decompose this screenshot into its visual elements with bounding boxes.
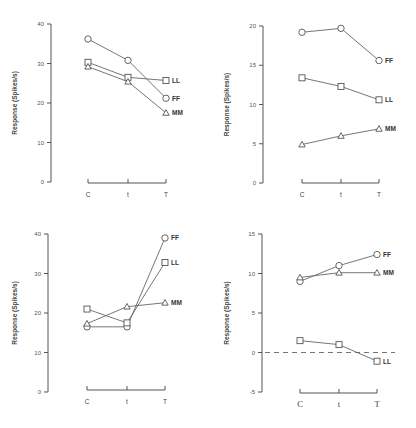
series-label: FF: [383, 251, 391, 258]
x-tick-label: T: [164, 191, 168, 198]
y-tick-label: 10: [37, 140, 44, 146]
series-label: LL: [383, 358, 391, 365]
series-mm: MM: [297, 269, 394, 280]
x-tick-label: T: [377, 191, 381, 198]
series-ff: FF: [299, 25, 393, 64]
y-tick-label: 20: [249, 23, 256, 29]
y-tick-label: 0: [252, 350, 256, 356]
series-label: MM: [171, 299, 182, 306]
y-axis-label: Response (Spikes/s): [223, 73, 231, 137]
square-marker-icon: [162, 259, 168, 265]
x-tick-label: T: [374, 399, 380, 409]
y-tick-label: 5: [252, 310, 256, 316]
y-tick-label: 10: [34, 350, 41, 356]
circle-marker-icon: [338, 25, 344, 31]
series-label: FF: [385, 57, 393, 64]
circle-marker-icon: [162, 235, 168, 241]
x-tick-label: t: [338, 399, 341, 409]
square-marker-icon: [299, 75, 305, 81]
circle-marker-icon: [125, 57, 131, 63]
series-ll: LL: [297, 338, 391, 365]
y-tick-label: 0: [253, 180, 257, 186]
square-marker-icon: [338, 83, 344, 89]
series-label: LL: [385, 96, 393, 103]
y-tick-label: 15: [248, 231, 255, 237]
square-marker-icon: [374, 358, 380, 364]
square-marker-icon: [163, 77, 169, 83]
y-tick-label: 0: [38, 389, 42, 395]
y-tick-label: 20: [34, 310, 41, 316]
series-label: MM: [172, 109, 183, 116]
series-mm: MM: [299, 125, 396, 147]
triangle-marker-icon: [376, 126, 382, 132]
chart-panel-top-right: 05101520Response (Spikes/s)CtTFFLLMM: [223, 23, 396, 198]
y-tick-label: 0: [41, 179, 45, 185]
x-tick-label: C: [86, 191, 91, 198]
chart-panel-bottom-left: 010203040Response (Spikes/s)CtTFFLLMM: [11, 231, 182, 405]
series-ff: FF: [85, 36, 180, 102]
chart-panel-bottom-right: -5051015Response (Spikes/s)CtTFFMMLL: [223, 231, 395, 409]
square-marker-icon: [124, 320, 130, 326]
circle-marker-icon: [163, 95, 169, 101]
circle-marker-icon: [299, 29, 305, 35]
y-tick-label: 40: [37, 21, 44, 27]
x-tick-label: C: [297, 399, 303, 409]
series-label: MM: [383, 269, 394, 276]
series-ll: LL: [84, 259, 179, 326]
series-label: FF: [172, 95, 180, 102]
y-tick-label: 10: [249, 102, 256, 108]
series-ll: LL: [299, 75, 393, 103]
y-axis-label: Response (Spikes/s): [11, 281, 19, 345]
y-tick-label: 30: [37, 61, 44, 67]
x-tick-label: t: [126, 398, 128, 405]
circle-marker-icon: [336, 262, 342, 268]
series-label: FF: [171, 234, 179, 241]
y-tick-label: 30: [34, 271, 41, 277]
y-tick-label: 40: [34, 231, 41, 237]
y-axis-label: Response (Spikes/s): [11, 71, 19, 135]
x-tick-label: T: [163, 398, 167, 405]
series-ff: FF: [297, 251, 391, 285]
y-tick-label: 5: [253, 141, 257, 147]
series-label: LL: [171, 259, 179, 266]
x-tick-label: t: [127, 191, 129, 198]
series-mm: MM: [85, 63, 183, 116]
y-tick-label: -5: [250, 389, 256, 395]
y-axis-label: Response (Spikes/s): [223, 281, 231, 345]
circle-marker-icon: [374, 251, 380, 257]
x-tick-label: C: [85, 398, 90, 405]
circle-marker-icon: [376, 57, 382, 63]
series-label: MM: [385, 125, 396, 132]
y-tick-label: 10: [248, 271, 255, 277]
square-marker-icon: [84, 306, 90, 312]
triangle-marker-icon: [162, 300, 168, 306]
series-line: [88, 67, 166, 113]
y-tick-label: 20: [37, 100, 44, 106]
series-line: [88, 39, 166, 98]
square-marker-icon: [297, 338, 303, 344]
triangle-marker-icon: [84, 320, 90, 326]
series-label: LL: [172, 77, 180, 84]
series-ll: LL: [85, 59, 180, 84]
square-marker-icon: [336, 342, 342, 348]
y-tick-label: 15: [249, 62, 256, 68]
x-tick-label: C: [300, 191, 305, 198]
series-line: [87, 262, 165, 322]
figure-four-panel-line-charts: 010203040Response (Spikes/s)CtTLLFFMM051…: [0, 0, 416, 428]
series-line: [302, 28, 379, 60]
square-marker-icon: [376, 97, 382, 103]
circle-marker-icon: [85, 36, 91, 42]
x-tick-label: t: [340, 191, 342, 198]
chart-panel-top-left: 010203040Response (Spikes/s)CtTLLFFMM: [11, 21, 183, 198]
